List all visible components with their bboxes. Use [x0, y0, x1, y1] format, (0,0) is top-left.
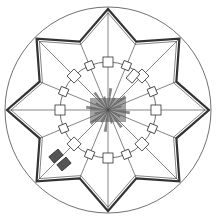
pillar: [147, 123, 157, 133]
pillar: [151, 105, 161, 115]
pillar: [103, 153, 113, 163]
plan-drawing: [0, 0, 216, 221]
central-hub: [90, 98, 126, 122]
pillar: [58, 123, 68, 133]
pillar: [84, 60, 94, 70]
pillar: [84, 149, 94, 159]
pillar: [121, 149, 131, 159]
pillar: [103, 57, 113, 67]
pillar: [121, 60, 131, 70]
pillar: [55, 105, 65, 115]
pillar: [58, 86, 68, 96]
octagonal-star-floor-plan: [0, 0, 216, 221]
pillar: [147, 86, 157, 96]
